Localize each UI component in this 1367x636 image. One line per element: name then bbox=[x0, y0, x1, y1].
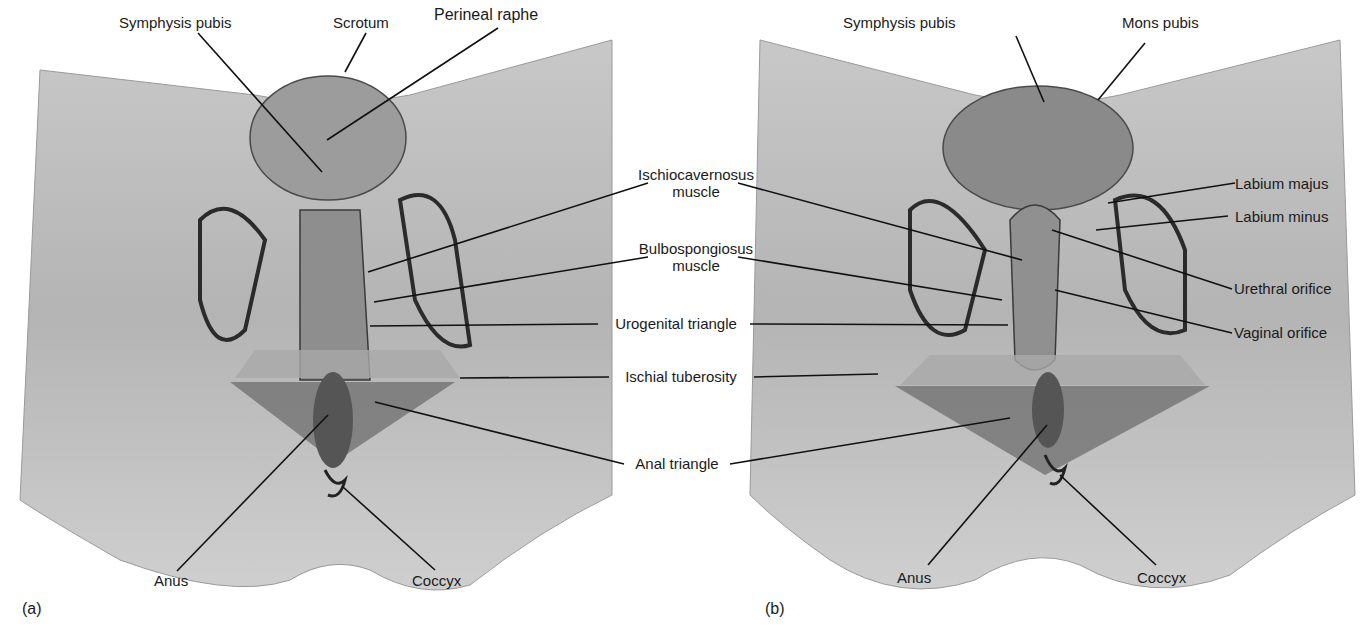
label-b-anus: Anus bbox=[897, 569, 931, 586]
label-b-symphysis-pubis: Symphysis pubis bbox=[843, 14, 956, 31]
label-bulbospongiosus-line2: muscle bbox=[596, 257, 796, 274]
label-a-symphysis-pubis: Symphysis pubis bbox=[119, 14, 232, 31]
label-ischiocavernosus: Ischiocavernosus muscle bbox=[596, 166, 796, 200]
label-b-labium-majus: Labium majus bbox=[1235, 175, 1328, 192]
panel-b-figure bbox=[750, 40, 1355, 589]
label-ischial-tuberosity: Ischial tuberosity bbox=[581, 368, 781, 385]
panel-a-figure bbox=[20, 40, 612, 590]
label-b-labium-minus: Labium minus bbox=[1235, 208, 1328, 225]
label-bulbospongiosus-line1: Bulbospongiosus bbox=[596, 240, 796, 257]
label-b-coccyx: Coccyx bbox=[1137, 569, 1186, 586]
panel-a-upper-region bbox=[250, 76, 406, 200]
label-urogenital-triangle: Urogenital triangle bbox=[576, 315, 776, 332]
label-a-anus: Anus bbox=[154, 572, 188, 589]
panel-b-upper-region bbox=[943, 86, 1133, 210]
label-b-vaginal-orifice: Vaginal orifice bbox=[1234, 324, 1327, 341]
label-ischiocavernosus-line2: muscle bbox=[596, 183, 796, 200]
panel-a-urogenital-band bbox=[235, 350, 460, 378]
panel-b-letter: (b) bbox=[765, 600, 785, 618]
label-a-scrotum: Scrotum bbox=[333, 14, 389, 31]
label-ischiocavernosus-line1: Ischiocavernosus bbox=[596, 166, 796, 183]
panel-a-letter: (a) bbox=[22, 600, 42, 618]
label-b-urethral-orifice: Urethral orifice bbox=[1234, 280, 1332, 297]
label-anal-triangle: Anal triangle bbox=[577, 455, 777, 472]
label-b-mons-pubis: Mons pubis bbox=[1122, 14, 1199, 31]
label-a-coccyx: Coccyx bbox=[412, 572, 461, 589]
label-a-perineal-raphe: Perineal raphe bbox=[434, 6, 538, 23]
label-bulbospongiosus: Bulbospongiosus muscle bbox=[596, 240, 796, 274]
panel-a-anal-region bbox=[313, 372, 353, 468]
